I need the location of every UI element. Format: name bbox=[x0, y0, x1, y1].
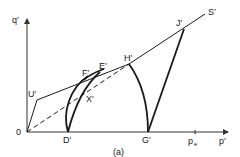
stress-path-diagram: q′ 0 p′ p e ′ U′ F′ E′ X′ H′ J′ S′ D′ G′… bbox=[0, 0, 240, 157]
point-h-label: H′ bbox=[124, 53, 132, 63]
x-axis-label: p′ bbox=[219, 136, 226, 146]
origin-label: 0 bbox=[16, 127, 21, 137]
point-j-label: J′ bbox=[176, 18, 183, 28]
path-h-g bbox=[129, 64, 148, 132]
pe-label: p bbox=[188, 136, 193, 146]
point-e-label: E′ bbox=[99, 61, 107, 71]
point-f-label: F′ bbox=[82, 68, 89, 78]
point-u-label: U′ bbox=[28, 89, 36, 99]
point-s-label: S′ bbox=[208, 7, 216, 17]
point-g-label: G′ bbox=[142, 135, 151, 145]
caption: (a) bbox=[113, 147, 124, 157]
pe-sub: e bbox=[194, 141, 198, 147]
point-d-label: D′ bbox=[63, 135, 71, 145]
y-axis-label: q′ bbox=[12, 15, 19, 25]
point-x-label: X′ bbox=[86, 94, 94, 104]
path-d-e bbox=[68, 72, 100, 132]
path-g-j bbox=[148, 29, 184, 132]
pe-prime: ′ bbox=[195, 132, 197, 138]
